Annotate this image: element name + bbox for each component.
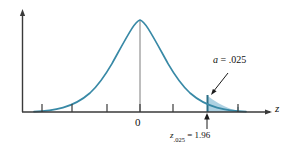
alpha-value: = .025 — [218, 54, 246, 65]
figure-canvas — [0, 0, 288, 151]
normal-distribution-figure: 0 z a = .025 z.025 = 1.96 — [0, 0, 288, 151]
critical-value-label: z.025 = 1.96 — [170, 131, 210, 142]
critical-value-number: = 1.96 — [185, 130, 210, 140]
x-axis-arrowhead — [265, 109, 272, 114]
x-axis-name-label: z — [275, 103, 279, 114]
y-axis-arrowhead — [20, 9, 25, 16]
critical-value-subscript: .025 — [174, 136, 185, 143]
alpha-leader-line — [213, 73, 228, 92]
critical-value-symbol: z — [170, 130, 174, 140]
zcrit-pointer-arrowhead — [204, 113, 210, 120]
x-axis-origin-label: 0 — [135, 117, 141, 128]
alpha-leader-arrowhead — [211, 89, 217, 95]
alpha-area-label: a = .025 — [213, 55, 246, 65]
